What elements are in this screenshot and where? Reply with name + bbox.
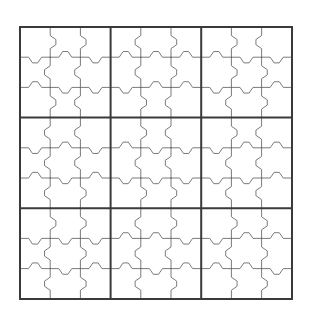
puzzle-cell[interactable] [80,178,110,208]
puzzle-cell[interactable] [50,269,80,299]
puzzle-cell[interactable] [111,148,141,178]
puzzle-cell[interactable] [20,118,50,148]
jigsaw-sudoku-figure [0,0,312,320]
puzzle-cell[interactable] [141,208,171,238]
puzzle-cell[interactable] [111,118,141,148]
puzzle-grid-svg [0,0,312,320]
puzzle-cell[interactable] [262,148,292,178]
puzzle-cell[interactable] [141,148,171,178]
puzzle-cell[interactable] [231,57,261,87]
puzzle-cell[interactable] [20,148,50,178]
puzzle-cell[interactable] [201,148,231,178]
puzzle-cell[interactable] [80,118,110,148]
puzzle-cell[interactable] [171,238,201,268]
puzzle-cell[interactable] [141,178,171,208]
puzzle-cell[interactable] [201,208,231,238]
puzzle-cell[interactable] [262,87,292,117]
puzzle-cell[interactable] [231,118,261,148]
puzzle-cell[interactable] [231,27,261,57]
puzzle-cell[interactable] [262,269,292,299]
puzzle-cell[interactable] [20,238,50,268]
puzzle-cell[interactable] [171,57,201,87]
puzzle-cell[interactable] [171,118,201,148]
puzzle-cell[interactable] [80,238,110,268]
puzzle-cell[interactable] [50,148,80,178]
puzzle-cell[interactable] [262,238,292,268]
puzzle-cell[interactable] [141,238,171,268]
puzzle-cell[interactable] [201,87,231,117]
puzzle-cell[interactable] [20,178,50,208]
puzzle-cell[interactable] [231,208,261,238]
puzzle-cell[interactable] [141,269,171,299]
puzzle-cell[interactable] [171,27,201,57]
puzzle-cell[interactable] [171,87,201,117]
puzzle-cell[interactable] [111,57,141,87]
puzzle-cell[interactable] [231,178,261,208]
puzzle-cell[interactable] [171,269,201,299]
puzzle-cell[interactable] [201,269,231,299]
puzzle-cell[interactable] [20,269,50,299]
puzzle-cell[interactable] [111,178,141,208]
puzzle-cell[interactable] [111,208,141,238]
puzzle-cell[interactable] [20,87,50,117]
cell-hit-layer [20,27,292,299]
puzzle-cell[interactable] [111,87,141,117]
puzzle-cell[interactable] [50,57,80,87]
puzzle-cell[interactable] [141,87,171,117]
puzzle-cell[interactable] [201,238,231,268]
puzzle-cell[interactable] [111,238,141,268]
puzzle-cell[interactable] [50,178,80,208]
puzzle-cell[interactable] [80,27,110,57]
puzzle-cell[interactable] [80,87,110,117]
puzzle-cell[interactable] [50,118,80,148]
puzzle-cell[interactable] [50,87,80,117]
puzzle-cell[interactable] [171,148,201,178]
puzzle-cell[interactable] [171,178,201,208]
puzzle-cell[interactable] [20,57,50,87]
puzzle-cell[interactable] [231,87,261,117]
puzzle-cell[interactable] [50,238,80,268]
puzzle-cell[interactable] [171,208,201,238]
puzzle-cell[interactable] [80,57,110,87]
puzzle-cell[interactable] [80,208,110,238]
puzzle-cell[interactable] [141,27,171,57]
puzzle-cell[interactable] [201,57,231,87]
puzzle-cell[interactable] [80,148,110,178]
puzzle-cell[interactable] [20,208,50,238]
puzzle-cell[interactable] [231,269,261,299]
puzzle-cell[interactable] [50,27,80,57]
puzzle-cell[interactable] [262,178,292,208]
puzzle-cell[interactable] [262,57,292,87]
puzzle-cell[interactable] [201,178,231,208]
puzzle-cell[interactable] [231,238,261,268]
puzzle-cell[interactable] [201,27,231,57]
puzzle-cell[interactable] [262,27,292,57]
puzzle-cell[interactable] [50,208,80,238]
puzzle-cell[interactable] [141,118,171,148]
puzzle-cell[interactable] [201,118,231,148]
puzzle-cell[interactable] [262,208,292,238]
puzzle-cell[interactable] [20,27,50,57]
puzzle-cell[interactable] [141,57,171,87]
puzzle-cell[interactable] [231,148,261,178]
puzzle-cell[interactable] [111,269,141,299]
puzzle-cell[interactable] [262,118,292,148]
puzzle-cell[interactable] [80,269,110,299]
puzzle-cell[interactable] [111,27,141,57]
